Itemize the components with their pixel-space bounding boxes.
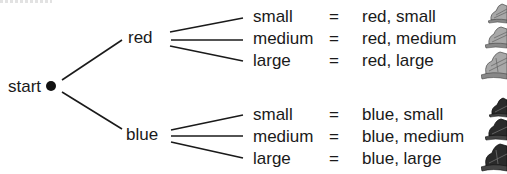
hat-light-small-icon bbox=[488, 2, 507, 24]
branch-label-blue: blue bbox=[126, 126, 158, 143]
equals-sign: = bbox=[329, 128, 339, 145]
outcome-label: red, medium bbox=[362, 30, 456, 47]
edge-blue-small bbox=[171, 115, 243, 130]
hat-dark-large-icon bbox=[481, 142, 507, 172]
equals-sign: = bbox=[329, 150, 339, 167]
size-label: small bbox=[253, 8, 293, 25]
equals-sign: = bbox=[329, 106, 339, 123]
hat-light-large-icon bbox=[481, 50, 507, 80]
edge-blue-large bbox=[171, 142, 243, 158]
hat-light-medium-icon bbox=[485, 25, 507, 49]
size-label: medium bbox=[253, 128, 313, 145]
equals-sign: = bbox=[329, 8, 339, 25]
tree-edges bbox=[0, 0, 507, 174]
hat-dark-medium-icon bbox=[485, 117, 507, 141]
root-label: start bbox=[8, 78, 41, 95]
edge-red-large bbox=[170, 46, 243, 61]
outcome-label: red, large bbox=[362, 52, 434, 69]
edge-start-red bbox=[62, 40, 122, 80]
outcome-label: red, small bbox=[362, 8, 436, 25]
branch-label-red: red bbox=[128, 29, 153, 46]
outcome-label: blue, large bbox=[362, 150, 441, 167]
root-node-dot bbox=[46, 81, 56, 91]
edge-red-small bbox=[170, 18, 243, 32]
equals-sign: = bbox=[329, 30, 339, 47]
size-label: large bbox=[253, 150, 291, 167]
hat-dark-small-icon bbox=[489, 96, 507, 118]
size-label: small bbox=[253, 106, 293, 123]
edge-start-blue bbox=[62, 92, 122, 129]
equals-sign: = bbox=[329, 52, 339, 69]
size-label: medium bbox=[253, 30, 313, 47]
outcome-label: blue, medium bbox=[362, 128, 464, 145]
size-label: large bbox=[253, 52, 291, 69]
outcome-label: blue, small bbox=[362, 106, 443, 123]
